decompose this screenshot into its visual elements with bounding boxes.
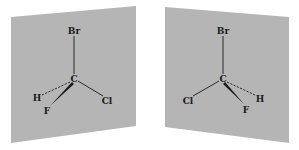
right-atom-h: H (256, 94, 265, 104)
left-molecule-panel: Br C H F Cl (11, 6, 136, 143)
left-atom-f: F (44, 106, 51, 116)
left-atom-br: Br (68, 26, 81, 36)
right-atom-f: F (243, 105, 250, 115)
left-atom-h: H (33, 93, 42, 103)
right-atom-c: C (219, 74, 226, 84)
enantiomer-diagram: Br C H F Cl Br C Cl H F (0, 0, 299, 150)
right-atom-cl: Cl (183, 96, 194, 106)
left-atom-c: C (70, 74, 77, 84)
right-molecule-panel: Br C Cl H F (165, 7, 289, 143)
right-atom-br: Br (217, 26, 230, 36)
left-atom-cl: Cl (102, 96, 113, 106)
